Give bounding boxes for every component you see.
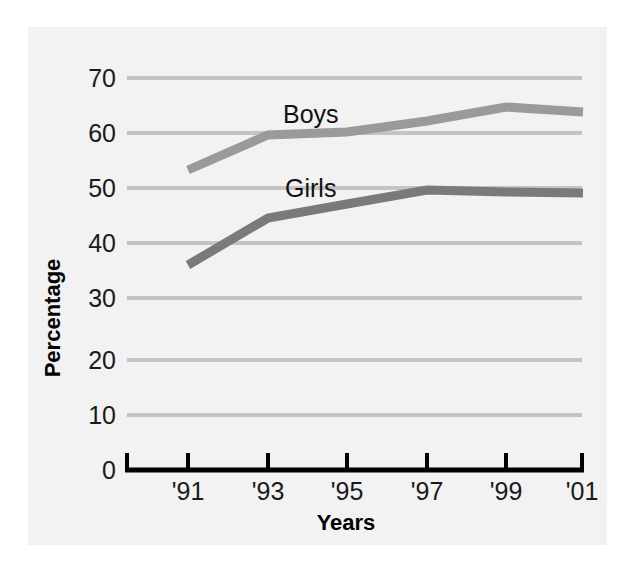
x-tick-label-91: '91 <box>172 477 205 505</box>
y-tick-label-10: 10 <box>88 401 116 429</box>
series-line-girls <box>188 190 583 265</box>
x-tick-label-01: '01 <box>566 477 599 505</box>
x-tick-label-97: '97 <box>411 477 444 505</box>
y-tick-label-40: 40 <box>88 229 116 257</box>
x-axis-title: Years <box>317 510 376 535</box>
x-tick-label-93: '93 <box>252 477 285 505</box>
series-label-girls: Girls <box>285 174 336 202</box>
y-tick-label-50: 50 <box>88 174 116 202</box>
series-label-boys: Boys <box>283 100 339 128</box>
y-tick-label-70: 70 <box>88 64 116 92</box>
series-line-boys <box>188 107 583 170</box>
y-axis-tick-labels: 70 60 50 40 30 20 10 0 <box>88 64 116 484</box>
x-tick-label-99: '99 <box>490 477 523 505</box>
x-tick-label-95: '95 <box>331 477 364 505</box>
line-chart: 70 60 50 40 30 20 10 0 Boys Girls <box>0 0 630 579</box>
x-axis-tick-labels: '91 '93 '95 '97 '99 '01 <box>172 477 599 505</box>
y-tick-label-60: 60 <box>88 119 116 147</box>
y-tick-label-30: 30 <box>88 284 116 312</box>
y-axis-title: Percentage <box>40 259 65 378</box>
y-tick-label-20: 20 <box>88 346 116 374</box>
y-tick-label-0: 0 <box>102 456 116 484</box>
axes <box>125 453 584 470</box>
chart-page: 70 60 50 40 30 20 10 0 Boys Girls <box>0 0 630 579</box>
